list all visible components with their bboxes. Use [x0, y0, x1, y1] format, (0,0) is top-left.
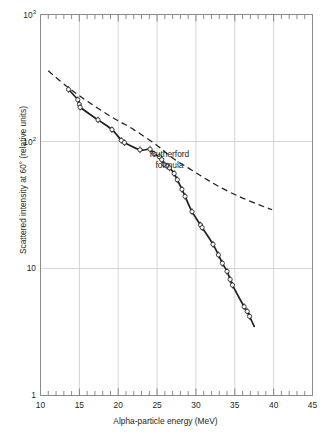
rutherford-formula-curve [48, 71, 272, 210]
plot-canvas [0, 0, 331, 435]
rutherford-formula-annotation: Rutherford formula [130, 149, 210, 171]
x-tick-label-15: 15 [65, 400, 93, 410]
y-tick-label-1: 1 [0, 390, 36, 400]
y-tick-label-10: 10 [0, 263, 36, 273]
scattering-intensity-chart: Scattered intensity at 60° (relative uni… [0, 0, 331, 435]
axis-ticks [41, 15, 313, 396]
y-tick-label-10: 103 [0, 9, 36, 20]
rutherford-annotation-line1: Rutherford [130, 149, 210, 160]
data-point-markers [66, 86, 251, 320]
y-tick-label-10: 102 [0, 136, 36, 147]
x-tick-label-30: 30 [182, 400, 210, 410]
x-tick-label-10: 10 [27, 400, 55, 410]
x-tick-label-40: 40 [260, 400, 288, 410]
plot-frame [41, 15, 313, 396]
x-axis-label: Alpha-particle energy (MeV) [0, 416, 331, 426]
y-axis-label: Scattered intensity at 60° (relative uni… [18, 80, 28, 280]
measured-data-curve [68, 89, 254, 326]
x-tick-label-45: 45 [299, 400, 327, 410]
x-tick-label-20: 20 [104, 400, 132, 410]
gridlines [41, 15, 313, 396]
x-tick-label-25: 25 [143, 400, 171, 410]
x-tick-label-35: 35 [221, 400, 249, 410]
rutherford-annotation-line2: formula [130, 160, 210, 171]
